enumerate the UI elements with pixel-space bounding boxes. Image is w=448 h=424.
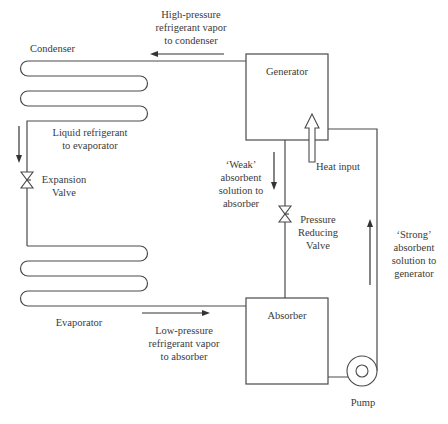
evaporator-coil (21, 246, 247, 306)
pump-label: Pump (338, 396, 388, 409)
strong-solution-arrow-icon (367, 219, 373, 285)
low-pressure-arrow-icon (142, 310, 210, 316)
strong-solution-label: ‘Strong’ absorbent solution to generator (384, 228, 444, 280)
absorption-refrigeration-diagram: Condenser High-pressure refrigerant vapo… (0, 0, 448, 424)
condenser-coil (21, 61, 247, 246)
high-pressure-vapor-label: High-pressure refrigerant vapor to conde… (146, 8, 236, 47)
expansion-valve-icon (21, 172, 33, 188)
high-pressure-arrow-icon (150, 51, 224, 57)
evaporator-label: Evaporator (44, 316, 114, 329)
heat-input-label: Heat input (316, 160, 376, 173)
weak-solution-label: ‘Weak’ absorbent solution to absorber (210, 158, 272, 210)
condenser-label: Condenser (30, 42, 90, 55)
low-pressure-vapor-label: Low-pressure refrigerant vapor to absorb… (138, 324, 230, 363)
pressure-reducing-valve-label: Pressure Reducing Valve (290, 213, 346, 252)
liquid-refrigerant-arrow-icon (16, 126, 22, 163)
liquid-refrigerant-label: Liquid refrigerant to evaporator (40, 126, 140, 152)
pump-icon (347, 356, 377, 386)
absorber-label: Absorber (246, 309, 328, 322)
generator-label: Generator (246, 65, 328, 78)
expansion-valve-label: Expansion Valve (36, 173, 92, 199)
